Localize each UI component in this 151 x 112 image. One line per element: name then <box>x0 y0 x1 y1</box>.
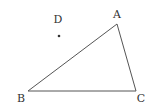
diagram-svg: A B C D <box>0 0 151 112</box>
point-d-dot <box>58 35 61 38</box>
label-a: A <box>112 8 122 21</box>
segment-ab <box>28 24 117 91</box>
label-c: C <box>137 92 145 105</box>
label-d: D <box>54 13 63 26</box>
label-b: B <box>17 92 25 105</box>
triangle-diagram: A B C D <box>0 0 151 112</box>
segment-ca <box>117 24 136 91</box>
